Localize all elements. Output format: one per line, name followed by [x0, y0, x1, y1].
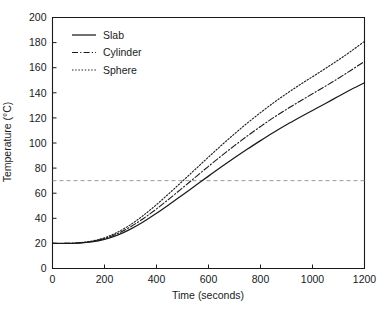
y-tick-label: 140: [29, 87, 47, 99]
y-axis-title: Temperature (°C): [1, 102, 13, 183]
chart-background: [0, 0, 385, 310]
x-tick-label: 800: [252, 273, 270, 285]
y-tick-label: 80: [35, 162, 47, 174]
y-tick-label: 100: [29, 137, 47, 149]
x-tick-label: 600: [200, 273, 218, 285]
y-tick-label: 20: [35, 237, 47, 249]
x-tick-label: 0: [50, 273, 56, 285]
x-tick-label: 1000: [301, 273, 325, 285]
y-tick-label: 40: [35, 212, 47, 224]
legend-label-slab: Slab: [103, 29, 124, 41]
legend-label-sphere: Sphere: [103, 64, 137, 76]
y-tick-label: 180: [29, 36, 47, 48]
x-tick-label: 200: [96, 273, 114, 285]
y-tick-label: 160: [29, 61, 47, 73]
chart-canvas: 020406080100120140160180200 020040060080…: [0, 0, 385, 310]
chart-figure: 020406080100120140160180200 020040060080…: [0, 0, 385, 310]
x-tick-label: 400: [148, 273, 166, 285]
y-tick-label: 60: [35, 187, 47, 199]
legend-label-cylinder: Cylinder: [103, 46, 142, 58]
x-axis-title: Time (seconds): [172, 289, 244, 301]
y-tick-label: 120: [29, 112, 47, 124]
x-tick-label: 1200: [353, 273, 377, 285]
y-tick-label: 200: [29, 11, 47, 23]
y-tick-label: 0: [41, 262, 47, 274]
